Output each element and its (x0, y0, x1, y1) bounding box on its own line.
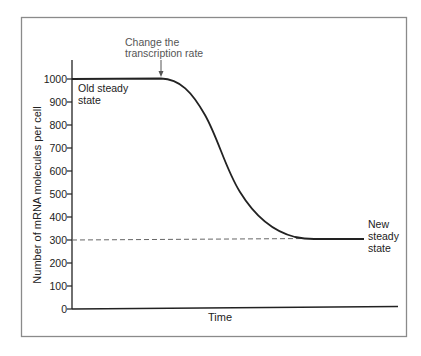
y-tick-label: 200 (49, 257, 67, 269)
y-tick-label: 600 (49, 165, 67, 177)
x-axis-label: Time (208, 311, 232, 323)
y-tick-label: 500 (49, 188, 67, 200)
new-steady-state-label-line1: New (368, 218, 389, 230)
down-arrow-icon (159, 71, 164, 77)
y-tick-label: 900 (49, 96, 67, 108)
y-ticks (67, 79, 72, 309)
y-tick-label: 300 (49, 234, 67, 246)
y-tick-label: 400 (49, 211, 67, 223)
old-steady-state-label-line1: Old steady (78, 82, 129, 94)
new-steady-state-label-line3: state (368, 242, 391, 254)
figure-frame (22, 18, 407, 337)
mrna-steady-state-chart: 1000 900 800 700 600 500 400 300 200 100… (0, 0, 421, 356)
x-axis (72, 307, 398, 310)
new-steady-state-label-line2: steady (368, 230, 400, 242)
y-tick-label: 100 (49, 280, 67, 292)
y-tick-label: 1000 (44, 73, 68, 85)
annotation-change-rate-line2: transcription rate (125, 47, 203, 59)
y-tick-label: 0 (61, 303, 67, 315)
y-tick-label: 700 (49, 142, 67, 154)
old-steady-state-label-line2: state (78, 94, 101, 106)
new-steady-state-reference-line (72, 239, 312, 241)
mrna-curve (72, 79, 364, 240)
y-tick-label: 800 (49, 119, 67, 131)
y-tick-labels: 1000 900 800 700 600 500 400 300 200 100… (44, 73, 68, 315)
y-axis-label: Number of mRNA molecules per cell (31, 106, 43, 283)
